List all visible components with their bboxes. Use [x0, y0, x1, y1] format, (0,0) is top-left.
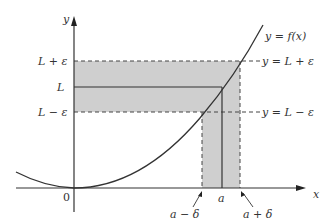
- L-plus-epsilon-label: L + ε: [38, 56, 67, 67]
- a-label: a: [218, 193, 225, 204]
- lower-line-label: y = L − ε: [262, 107, 314, 118]
- a-plus-delta-pointer-icon: [241, 191, 245, 197]
- a-minus-delta-label: a − δ: [170, 209, 199, 220]
- x-axis-arrow-icon: [296, 185, 306, 191]
- y-axis-arrow-icon: [71, 16, 77, 26]
- a-minus-delta-pointer-icon: [198, 191, 202, 197]
- curve-label: y = f(x): [265, 31, 306, 42]
- a-plus-delta-label: a + δ: [243, 209, 272, 220]
- origin-label: 0: [63, 192, 70, 203]
- x-axis-label: x: [313, 189, 319, 200]
- y-axis-label: y: [63, 14, 69, 25]
- L-label: L: [57, 82, 64, 93]
- L-minus-epsilon-label: L − ε: [38, 107, 67, 118]
- delta-band: [202, 112, 240, 188]
- upper-line-label: y = L + ε: [262, 56, 314, 67]
